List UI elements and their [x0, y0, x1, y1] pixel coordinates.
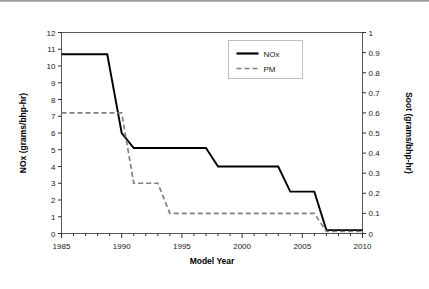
- y-axis-tick-label: 2: [51, 196, 56, 205]
- y2-axis-tick-label: 0.1: [369, 209, 381, 218]
- y-axis-tick-label: 3: [51, 179, 56, 188]
- y-axis-tick-label: 0: [51, 230, 56, 239]
- legend-label-pm: PM: [264, 65, 276, 74]
- y2-axis-tick-label: 0.5: [369, 129, 381, 138]
- x-axis-tick-label: 2010: [354, 242, 372, 251]
- y-axis-title: NOx (grams/bhp-hr): [18, 93, 28, 173]
- y-axis-tick-label: 12: [47, 29, 56, 38]
- x-axis-tick-label: 1995: [173, 242, 191, 251]
- y-axis-tick-label: 8: [51, 96, 56, 105]
- y-axis-tick-label: 11: [47, 45, 56, 54]
- y2-axis-tick-label: 0.7: [369, 89, 381, 98]
- y2-axis-tick-label: 0.9: [369, 49, 381, 58]
- emissions-line-chart: 012345678910111200.10.20.30.40.50.60.70.…: [0, 0, 429, 289]
- x-axis-tick-label: 2000: [233, 242, 251, 251]
- series-line-nox: [62, 54, 363, 230]
- y-axis-tick-label: 9: [51, 79, 56, 88]
- y-axis-tick-label: 5: [51, 146, 56, 155]
- y2-axis-tick-label: 1: [369, 29, 374, 38]
- x-axis-tick-label: 1990: [113, 242, 131, 251]
- y-axis-tick-label: 7: [51, 112, 56, 121]
- y2-axis-tick-label: 0: [369, 230, 374, 239]
- x-axis-tick-label: 1985: [53, 242, 71, 251]
- series-line-pm: [62, 113, 363, 232]
- y2-axis-title: Soot (grams/bhp-hr): [404, 92, 414, 174]
- x-axis-title: Model Year: [190, 256, 235, 266]
- y-axis-tick-label: 10: [47, 62, 56, 71]
- y2-axis-tick-label: 0.3: [369, 169, 381, 178]
- y-axis-tick-label: 4: [51, 163, 56, 172]
- y2-axis-tick-label: 0.8: [369, 69, 381, 78]
- x-axis-tick-label: 2005: [293, 242, 311, 251]
- y2-axis-tick-label: 0.2: [369, 189, 381, 198]
- y2-axis-tick-label: 0.4: [369, 149, 381, 158]
- legend-label-nox: NOx: [264, 50, 280, 59]
- y-axis-tick-label: 1: [51, 213, 56, 222]
- chart-figure: 012345678910111200.10.20.30.40.50.60.70.…: [0, 0, 429, 289]
- y-axis-tick-label: 6: [51, 129, 56, 138]
- y2-axis-tick-label: 0.6: [369, 109, 381, 118]
